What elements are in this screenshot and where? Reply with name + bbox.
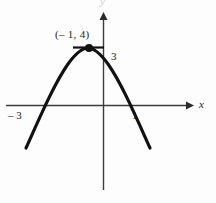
y-axis-label: y: [100, 0, 105, 7]
y-intercept-tick-label: 3: [111, 51, 117, 62]
y-axis-arrowhead: [100, 12, 108, 20]
vertex-coordinate-label: (– 1, 4): [55, 29, 89, 40]
x-axis-label: x: [199, 99, 204, 110]
plot-canvas: [0, 0, 216, 203]
vertex-point-marker: [85, 44, 93, 52]
x-axis: [6, 102, 194, 110]
parabola-figure: y x (– 1, 4) 3 – 3 1: [0, 0, 216, 203]
left-x-intercept-tick-label: – 3: [8, 110, 22, 121]
right-x-intercept-tick-label: 1: [132, 110, 138, 121]
y-axis: [100, 12, 108, 190]
x-axis-arrowhead: [186, 102, 194, 110]
parabola-curve: [26, 48, 150, 148]
